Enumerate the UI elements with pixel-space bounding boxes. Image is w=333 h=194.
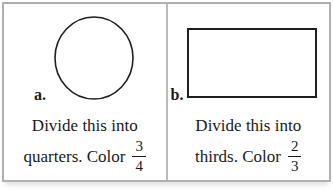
panel-a-fraction-denominator: 4 xyxy=(135,157,143,175)
panel-b-instruction-line2-text: thirds. Color xyxy=(195,146,281,167)
panel-b-label: b. xyxy=(171,86,184,104)
panel-b-fraction: 2 3 xyxy=(288,138,302,175)
worksheet-frame: a. Divide this into quarters. Color 3 4 … xyxy=(2,2,331,182)
panel-b-fraction-denominator: 3 xyxy=(291,157,299,175)
panel-a: a. Divide this into quarters. Color 3 4 xyxy=(4,4,168,180)
panel-a-instruction-line2: quarters. Color 3 4 xyxy=(4,138,166,175)
rectangle-shape xyxy=(187,28,317,98)
panel-a-caption: Divide this into quarters. Color 3 4 xyxy=(4,115,166,175)
panel-a-fraction-numerator: 3 xyxy=(132,138,146,157)
panel-b-caption: Divide this into thirds. Color 2 3 xyxy=(168,115,330,175)
panel-b: b. Divide this into thirds. Color 2 3 xyxy=(168,4,330,180)
panel-a-fraction: 3 4 xyxy=(132,138,146,175)
circle-shape xyxy=(4,4,165,114)
panel-b-fraction-numerator: 2 xyxy=(288,138,302,157)
panel-a-instruction-line2-text: quarters. Color xyxy=(24,146,126,167)
panel-b-instruction-line2: thirds. Color 2 3 xyxy=(168,138,330,175)
panel-b-instruction-line1: Divide this into xyxy=(168,115,330,136)
panel-a-label: a. xyxy=(34,86,46,104)
panel-a-instruction-line1: Divide this into xyxy=(4,115,166,136)
